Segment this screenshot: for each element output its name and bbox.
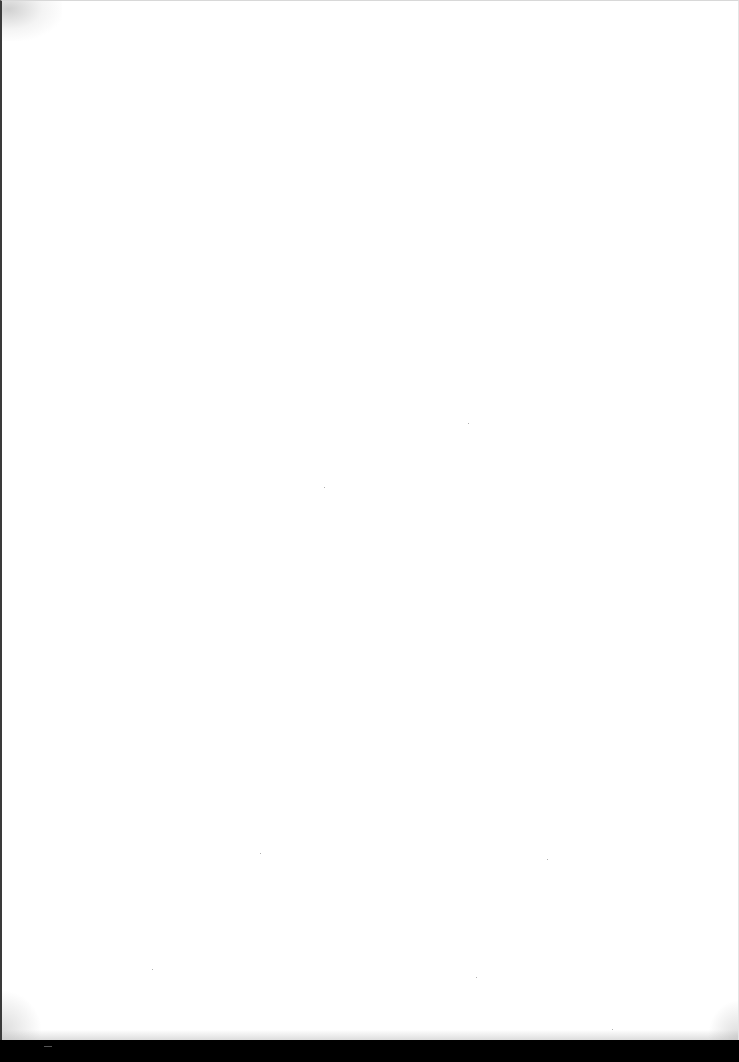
blank-scanned-page — [0, 0, 739, 1040]
scan-speck — [476, 977, 477, 978]
scan-speck — [547, 859, 548, 860]
scan-speck — [324, 487, 325, 488]
scan-speck — [152, 969, 153, 970]
scan-speck — [468, 423, 469, 424]
scanner-bottom-band — [0, 1040, 739, 1062]
scan-speck — [612, 1029, 613, 1030]
scan-speck — [260, 853, 261, 854]
scan-edge-shadow — [2, 1030, 738, 1040]
scan-artifact-mark — [44, 1046, 52, 1047]
scan-smudge-top-left — [2, 1, 62, 41]
